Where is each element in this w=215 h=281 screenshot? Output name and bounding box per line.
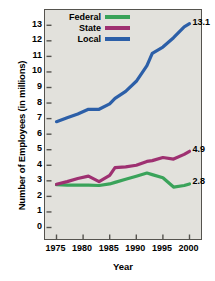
legend-label: State [79,23,101,33]
y-tick-label: 5 [26,144,42,153]
axis-tick-marks [47,25,190,239]
data-label-state: 4.9 [193,144,206,154]
legend-label: Federal [69,12,101,22]
y-tick-label: 3 [26,175,42,184]
chart-legend: FederalStateLocal [52,12,130,45]
legend-item-federal: Federal [52,12,130,22]
cropped-caption [0,277,215,281]
y-tick-label: 8 [26,98,42,107]
y-tick-label: 2 [26,191,42,200]
chart-figure: Number of Employees (in millions) 012345… [0,0,215,281]
legend-item-local: Local [52,34,130,44]
y-tick-label: 4 [26,160,42,169]
data-label-local: 13.1 [193,17,211,27]
y-axis-tick-labels: 012345678910111213 [24,0,42,281]
y-tick-label: 7 [26,113,42,122]
y-tick-label: 13 [26,20,42,29]
x-axis-tick-labels: 197519801985199019952000 [0,243,215,257]
legend-color-swatch [105,26,130,30]
y-tick-label: 9 [26,82,42,91]
legend-item-state: State [52,23,130,33]
legend-label: Local [77,34,101,44]
legend-color-swatch [105,37,130,41]
y-tick-label: 1 [26,206,42,215]
y-tick-label: 6 [26,129,42,138]
data-label-federal: 2.8 [193,176,206,186]
y-tick-label: 0 [26,222,42,231]
legend-color-swatch [105,15,130,19]
y-tick-label: 12 [26,35,42,44]
y-tick-label: 10 [26,66,42,75]
x-axis-title: Year [44,261,202,272]
x-tick-label: 2000 [169,243,209,253]
y-tick-label: 11 [26,51,42,60]
